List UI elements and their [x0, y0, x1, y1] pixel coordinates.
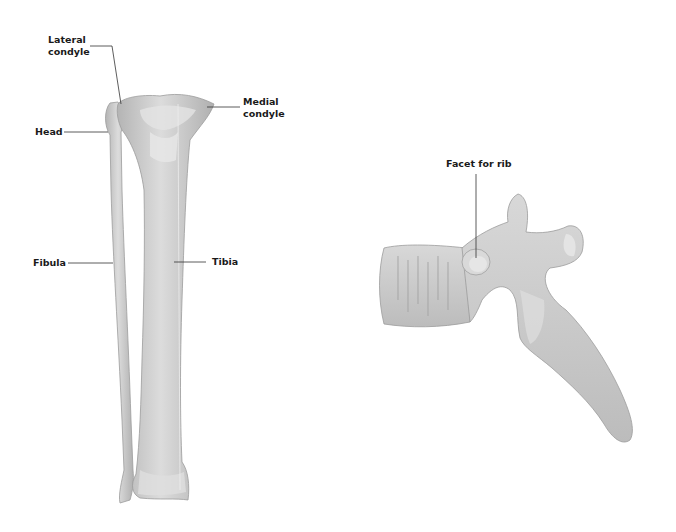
label-fibula: Fibula — [33, 257, 66, 269]
leader-lateral-condyle — [90, 46, 121, 104]
label-tibia: Tibia — [212, 256, 238, 268]
label-medial-condyle: Medial condyle — [243, 96, 285, 120]
label-lateral-condyle: Lateral condyle — [48, 34, 90, 58]
diagram-canvas — [0, 0, 676, 532]
leader-lines — [64, 46, 476, 263]
label-head: Head — [35, 126, 63, 138]
fibula-bone — [106, 102, 134, 503]
label-facet-for-rib: Facet for rib — [446, 158, 512, 170]
vertebra-bone — [380, 194, 633, 442]
